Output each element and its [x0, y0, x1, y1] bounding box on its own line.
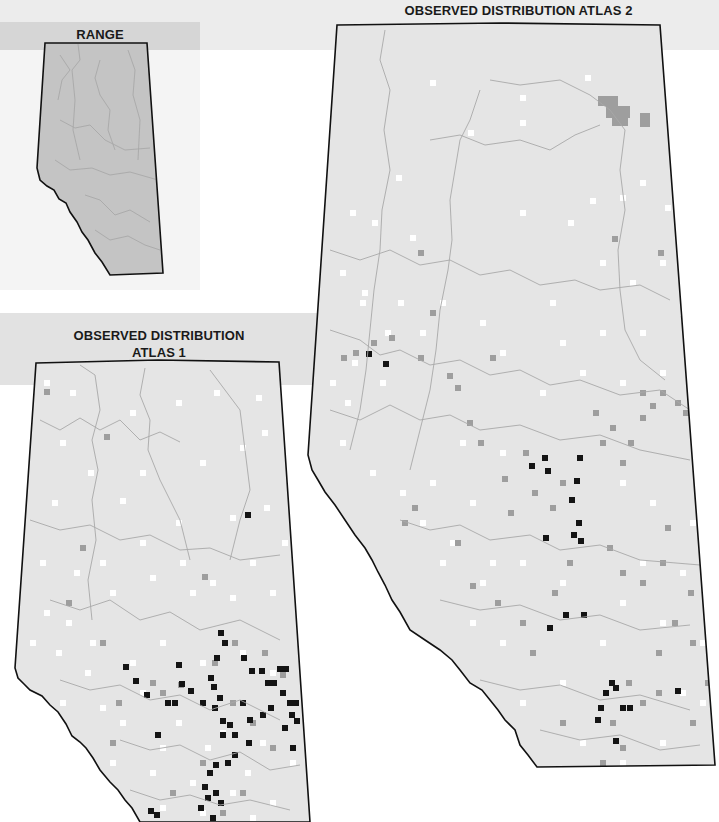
low-abundance-cell: [116, 700, 122, 706]
high-abundance-cell: [222, 640, 228, 646]
high-abundance-cell: [290, 745, 296, 751]
surveyed-not-observed-cell: [40, 560, 46, 566]
surveyed-not-observed-cell: [660, 620, 666, 626]
high-abundance-cell: [294, 718, 300, 724]
surveyed-not-observed-cell: [700, 390, 706, 396]
surveyed-not-observed-cell: [362, 290, 368, 296]
low-abundance-cell: [455, 540, 461, 546]
surveyed-not-observed-cell: [520, 210, 526, 216]
surveyed-not-observed-cell: [190, 780, 196, 786]
high-abundance-cell: [198, 805, 204, 811]
low-abundance-cell: [66, 600, 72, 606]
surveyed-not-observed-cell: [360, 300, 366, 306]
high-abundance-cell: [210, 815, 216, 821]
high-abundance-cell: [154, 812, 160, 818]
atlas1-map: [15, 360, 310, 822]
low-abundance-cell: [660, 560, 666, 566]
high-abundance-cell: [213, 762, 219, 768]
high-abundance-cell: [207, 770, 213, 776]
high-abundance-cell: [293, 700, 299, 706]
surveyed-not-observed-cell: [520, 95, 526, 101]
surveyed-not-observed-cell: [150, 770, 156, 776]
high-abundance-cell: [133, 678, 139, 684]
high-abundance-cell: [211, 684, 217, 690]
low-abundance-cell: [80, 545, 86, 551]
low-abundance-cell: [656, 650, 662, 656]
surveyed-not-observed-cell: [480, 580, 486, 586]
high-abundance-cell: [576, 520, 582, 526]
high-abundance-cell: [282, 725, 288, 731]
surveyed-not-observed-cell: [690, 520, 696, 526]
surveyed-not-observed-cell: [620, 760, 626, 766]
surveyed-not-observed-cell: [56, 650, 62, 656]
surveyed-not-observed-cell: [410, 235, 416, 241]
surveyed-not-observed-cell: [345, 400, 351, 406]
surveyed-not-observed-cell: [352, 360, 358, 366]
surveyed-not-observed-cell: [468, 130, 474, 136]
high-abundance-cell: [675, 688, 681, 694]
maps-canvas: [0, 0, 719, 822]
surveyed-not-observed-cell: [398, 300, 404, 306]
high-abundance-cell: [188, 688, 194, 694]
surveyed-not-observed-cell: [120, 720, 126, 726]
high-abundance-cell: [268, 705, 274, 711]
surveyed-not-observed-cell: [250, 560, 256, 566]
surveyed-not-observed-cell: [500, 350, 506, 356]
surveyed-not-observed-cell: [245, 770, 251, 776]
surveyed-not-observed-cell: [630, 280, 636, 286]
surveyed-not-observed-cell: [640, 330, 646, 336]
surveyed-not-observed-cell: [585, 75, 591, 81]
surveyed-not-observed-cell: [100, 560, 106, 566]
surveyed-not-observed-cell: [600, 640, 606, 646]
surveyed-not-observed-cell: [600, 330, 606, 336]
surveyed-not-observed-cell: [568, 220, 574, 226]
surveyed-not-observed-cell: [60, 700, 66, 706]
high-abundance-cell: [578, 538, 584, 544]
high-abundance-cell: [543, 535, 549, 541]
low-abundance-cell: [656, 690, 662, 696]
surveyed-not-observed-cell: [205, 745, 211, 751]
high-abundance-cell: [613, 738, 619, 744]
surveyed-not-observed-cell: [176, 720, 182, 726]
surveyed-not-observed-cell: [520, 120, 526, 126]
surveyed-not-observed-cell: [640, 560, 646, 566]
range-map: [37, 43, 163, 275]
low-abundance-cell: [523, 450, 529, 456]
low-abundance-cell: [455, 385, 461, 391]
low-abundance-cell: [600, 440, 606, 446]
high-abundance-cell: [271, 680, 277, 686]
high-abundance-cell: [574, 478, 580, 484]
surveyed-not-observed-cell: [370, 470, 376, 476]
surveyed-not-observed-cell: [560, 580, 566, 586]
surveyed-not-observed-cell: [140, 540, 146, 546]
low-abundance-cell: [593, 410, 599, 416]
low-abundance-cell: [628, 440, 634, 446]
surveyed-not-observed-cell: [550, 300, 556, 306]
surveyed-not-observed-cell: [372, 220, 378, 226]
surveyed-not-observed-cell: [500, 640, 506, 646]
low-abundance-cell: [495, 600, 501, 606]
high-abundance-cell: [547, 625, 553, 631]
surveyed-not-observed-cell: [480, 320, 486, 326]
surveyed-not-observed-cell: [660, 260, 666, 266]
low-abundance-cell: [220, 810, 226, 816]
high-abundance-cell: [277, 666, 283, 672]
surveyed-not-observed-cell: [580, 370, 586, 376]
surveyed-not-observed-cell: [430, 480, 436, 486]
high-abundance-cell: [179, 681, 185, 687]
low-abundance-cell: [665, 525, 671, 531]
surveyed-not-observed-cell: [130, 410, 136, 416]
atlas2-map: [308, 23, 715, 767]
high-abundance-cell: [265, 680, 271, 686]
low-abundance-cell: [610, 425, 616, 431]
high-abundance-cell: [569, 497, 575, 503]
surveyed-not-observed-cell: [176, 400, 182, 406]
high-abundance-cell: [289, 712, 295, 718]
high-abundance-cell: [542, 455, 548, 461]
surveyed-not-observed-cell: [680, 570, 686, 576]
high-abundance-cell: [202, 784, 208, 790]
surveyed-not-observed-cell: [690, 240, 696, 246]
high-abundance-cell: [529, 463, 535, 469]
low-abundance-cell: [658, 250, 664, 256]
high-abundance-cell: [598, 705, 604, 711]
